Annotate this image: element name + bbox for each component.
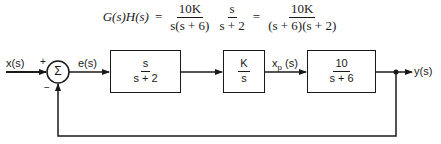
plus-sign: + (40, 56, 46, 67)
error-signal-label: e(s) (78, 57, 97, 69)
output-signal-label: y(s) (414, 65, 432, 77)
block-1-transfer-function: s s + 2 (110, 50, 181, 93)
minus-sign: − (44, 82, 50, 93)
input-signal-label: x(s) (6, 57, 24, 69)
block-2-integrator: K s (223, 50, 265, 93)
sigma-symbol: Σ (47, 64, 69, 78)
block-3-plant: 10 s + 6 (307, 50, 376, 93)
intermediate-signal-label: xp (s) (272, 57, 298, 72)
